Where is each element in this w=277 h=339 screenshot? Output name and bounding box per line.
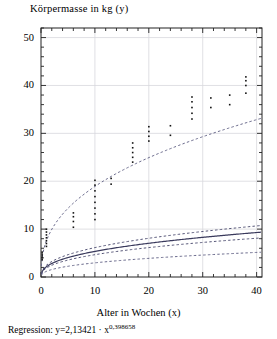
data-point [245, 92, 247, 94]
data-point [245, 85, 247, 87]
regression-exponent: 0,398658 [109, 323, 135, 331]
y-axis-tick-label: 0 [6, 272, 34, 282]
data-point [132, 147, 134, 149]
data-point [110, 183, 112, 185]
data-point [191, 112, 193, 114]
x-axis-tick-label: 40 [242, 286, 272, 296]
x-axis-tick-label: 0 [26, 286, 56, 296]
data-point [94, 207, 96, 209]
y-axis-tick-label: 10 [6, 224, 34, 234]
data-point [41, 251, 43, 253]
data-point [132, 157, 134, 159]
data-point [229, 104, 231, 106]
data-point [73, 212, 75, 214]
data-point [94, 190, 96, 192]
data-point [46, 234, 48, 236]
data-point [94, 213, 96, 215]
data-point [46, 231, 48, 233]
y-axis-tick-label: 30 [6, 128, 34, 138]
data-point [132, 152, 134, 154]
data-point [191, 101, 193, 103]
data-point [41, 259, 43, 261]
regression-caption-text: Regression: y=2,13421 · x [8, 325, 109, 335]
x-axis-tick-label: 30 [188, 286, 218, 296]
regression-caption: Regression: y=2,13421 · x0,398658 [8, 323, 135, 335]
data-point [110, 178, 112, 180]
data-point [191, 96, 193, 98]
regression-chart-figure: Körpermasse in kg (y) Alter in Wochen (x… [0, 0, 277, 339]
data-point [148, 126, 150, 128]
x-axis-title: Alter in Wochen (x) [0, 307, 277, 318]
data-point [73, 221, 75, 223]
data-point [73, 226, 75, 228]
data-point [41, 257, 43, 259]
data-point [148, 140, 150, 142]
data-point [245, 76, 247, 78]
data-point [191, 107, 193, 109]
data-point [94, 184, 96, 186]
x-axis-tick-label: 10 [80, 286, 110, 296]
data-point [46, 243, 48, 245]
data-point [46, 246, 48, 248]
data-point [148, 131, 150, 133]
data-point [170, 135, 172, 137]
curve-oberes-prognoseband [41, 118, 261, 266]
data-point [148, 135, 150, 137]
plot-frame [41, 28, 262, 277]
data-point [170, 125, 172, 127]
x-axis-tick-label: 20 [134, 286, 164, 296]
data-point [94, 202, 96, 204]
data-point [229, 94, 231, 96]
y-axis-tick-label: 40 [6, 80, 34, 90]
data-point [46, 237, 48, 239]
y-axis-tick-label: 20 [6, 176, 34, 186]
data-point [46, 228, 48, 230]
data-point [245, 80, 247, 82]
data-point [41, 255, 43, 257]
y-axis-tick-label: 50 [6, 33, 34, 43]
data-point [132, 142, 134, 144]
data-point [191, 118, 193, 120]
data-point [94, 180, 96, 182]
curve-oberes-konfidenzband [41, 226, 261, 274]
data-point [41, 253, 43, 255]
data-point [210, 107, 212, 109]
data-point [94, 219, 96, 221]
data-point [73, 216, 75, 218]
data-point [210, 97, 212, 99]
data-point [46, 240, 48, 242]
data-point [132, 161, 134, 163]
data-point [94, 196, 96, 198]
